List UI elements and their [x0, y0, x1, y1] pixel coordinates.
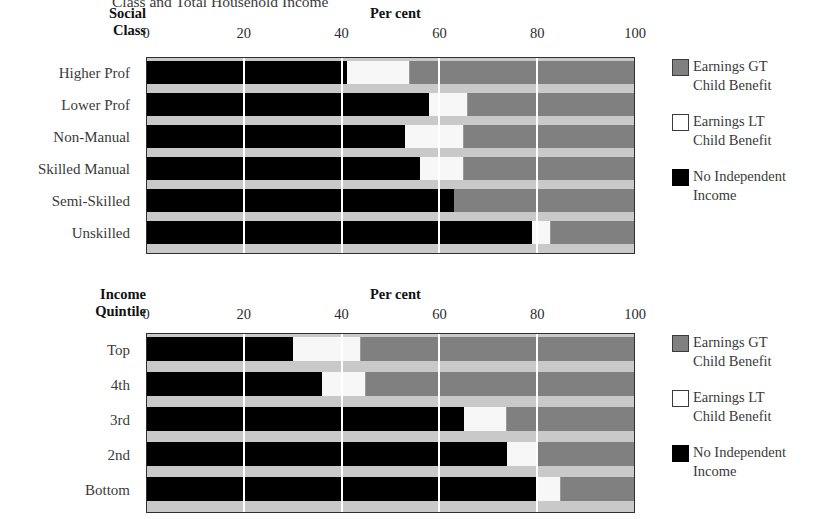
social-segment [410, 61, 634, 84]
chart-panel-social-class: Social Class Per cent 020406080100 Highe… [0, 0, 836, 262]
income-segment [464, 407, 508, 431]
social-segment [468, 93, 634, 116]
social-segment [429, 93, 468, 116]
income-plot-area [146, 333, 635, 513]
legend-label-line1: Earnings GT [693, 333, 772, 352]
legend-label-line1: Earnings LT [693, 112, 772, 131]
social-segment [147, 189, 454, 212]
income-legend: Earnings GTChild BenefitEarnings LTChild… [672, 333, 836, 498]
income-segment [537, 477, 561, 501]
income-segment [361, 337, 634, 361]
income-tick-0: 0 [142, 306, 149, 323]
social-segment [147, 221, 532, 244]
social-legend-swatch-earnings-lt [672, 114, 689, 131]
social-x-axis-ticks: 020406080100 [146, 25, 635, 45]
social-segment [420, 157, 464, 180]
legend-label-line2: Income [693, 462, 786, 481]
social-category-label: Skilled Manual [38, 161, 130, 178]
social-segment [147, 125, 405, 148]
social-category-labels: Higher ProfLower ProfNon-ManualSkilled M… [0, 57, 138, 254]
social-tick-20: 20 [237, 25, 252, 42]
social-legend-swatch-no-income [672, 169, 689, 186]
legend-label-line2: Child Benefit [693, 131, 772, 150]
income-segment [366, 372, 634, 396]
income-legend-item-earnings-gt: Earnings GTChild Benefit [672, 333, 836, 371]
chart-panel-income-quintile: Income Quintile Per cent 020406080100 To… [0, 282, 836, 519]
social-category-label: Lower Prof [61, 97, 130, 114]
social-tick-40: 40 [334, 25, 349, 42]
legend-label-line2: Child Benefit [693, 352, 772, 371]
income-header-line1: Income [0, 286, 146, 303]
income-legend-swatch-earnings-gt [672, 335, 689, 352]
income-segment [293, 337, 361, 361]
income-x-axis-ticks: 020406080100 [146, 306, 635, 326]
social-class-header-line1: Social [0, 5, 146, 22]
income-tick-80: 80 [530, 306, 545, 323]
income-segment [147, 442, 507, 466]
legend-label-line1: Earnings LT [693, 388, 772, 407]
income-segment [147, 372, 322, 396]
income-legend-swatch-earnings-lt [672, 390, 689, 407]
legend-label-line1: No Independent [693, 167, 786, 186]
income-tick-60: 60 [432, 306, 447, 323]
legend-label-line1: Earnings GT [693, 57, 772, 76]
income-category-label: 4th [111, 376, 130, 393]
income-segment [147, 477, 537, 501]
income-quintile-axis-header: Income Quintile [0, 286, 146, 320]
social-tick-80: 80 [530, 25, 545, 42]
social-segment [147, 93, 429, 116]
social-legend: Earnings GTChild BenefitEarnings LTChild… [672, 57, 836, 222]
income-axis-title: Per cent [370, 286, 421, 303]
social-legend-item-no-income: No IndependentIncome [672, 167, 836, 205]
social-segment [147, 157, 420, 180]
income-category-label: Bottom [85, 481, 130, 498]
income-legend-item-no-income: No IndependentIncome [672, 443, 836, 481]
social-segment [147, 61, 347, 84]
income-legend-label-earnings-gt: Earnings GTChild Benefit [693, 333, 772, 371]
legend-label-line2: Income [693, 186, 786, 205]
income-category-labels: Top4th3rd2ndBottom [0, 333, 138, 513]
social-class-axis-header: Social Class [0, 5, 146, 39]
income-segment [507, 407, 634, 431]
income-tick-100: 100 [624, 306, 646, 323]
legend-label-line1: No Independent [693, 443, 786, 462]
social-legend-item-earnings-lt: Earnings LTChild Benefit [672, 112, 836, 150]
income-legend-swatch-no-income [672, 445, 689, 462]
social-segment [347, 61, 410, 84]
income-category-label: 2nd [108, 446, 131, 463]
social-legend-label-earnings-gt: Earnings GTChild Benefit [693, 57, 772, 95]
income-legend-label-earnings-lt: Earnings LTChild Benefit [693, 388, 772, 426]
income-tick-40: 40 [334, 306, 349, 323]
social-segment [532, 221, 551, 244]
income-tick-20: 20 [237, 306, 252, 323]
social-legend-item-earnings-gt: Earnings GTChild Benefit [672, 57, 836, 95]
income-segment [322, 372, 366, 396]
social-legend-label-earnings-lt: Earnings LTChild Benefit [693, 112, 772, 150]
social-segment [405, 125, 463, 148]
social-category-label: Non-Manual [53, 129, 130, 146]
income-category-label: Top [107, 341, 130, 358]
figure-root: Class and Total Household Income Social … [0, 0, 836, 519]
income-segment [537, 442, 634, 466]
legend-label-line2: Child Benefit [693, 76, 772, 95]
income-segment [561, 477, 634, 501]
social-category-label: Unskilled [72, 225, 130, 242]
legend-label-line2: Child Benefit [693, 407, 772, 426]
social-legend-swatch-earnings-gt [672, 59, 689, 76]
social-segment [464, 157, 634, 180]
social-segment [454, 189, 634, 212]
income-segment [147, 337, 293, 361]
income-category-label: 3rd [110, 411, 130, 428]
social-segment [464, 125, 634, 148]
social-category-label: Semi-Skilled [52, 193, 130, 210]
income-header-line2: Quintile [0, 303, 146, 320]
social-class-header-line2: Class [0, 22, 146, 39]
social-tick-0: 0 [142, 25, 149, 42]
social-legend-label-no-income: No IndependentIncome [693, 167, 786, 205]
social-segment [551, 221, 634, 244]
social-tick-60: 60 [432, 25, 447, 42]
income-legend-label-no-income: No IndependentIncome [693, 443, 786, 481]
social-plot-area [146, 57, 635, 254]
income-segment [507, 442, 536, 466]
social-category-label: Higher Prof [59, 65, 130, 82]
